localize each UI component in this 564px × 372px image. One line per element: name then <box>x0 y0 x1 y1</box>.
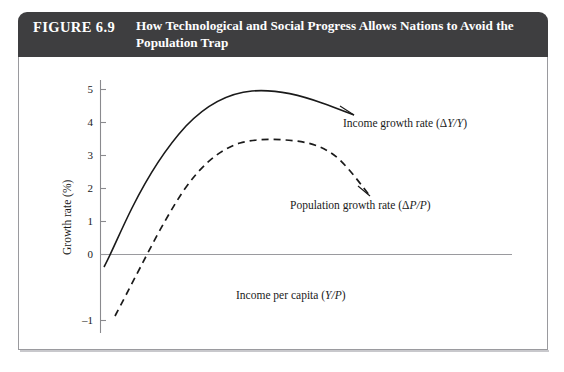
y-tick-label-3: 3 <box>88 149 94 161</box>
y-tick-label-0: 0 <box>88 248 94 260</box>
y-tick-label-neg1: –1 <box>81 314 93 326</box>
population-label-leader <box>358 186 370 196</box>
chart-plot-area: 5 4 3 2 1 0 –1 Growth rate (%) Income gr… <box>0 0 564 372</box>
y-tick-label-5: 5 <box>88 83 94 95</box>
y-tick-label-1: 1 <box>88 215 94 227</box>
y-axis-ticks <box>101 90 107 321</box>
y-tick-label-2: 2 <box>88 182 94 194</box>
y-axis-title: Growth rate (%) <box>61 179 74 255</box>
series-label-population: Population growth rate (ΔP/P) <box>290 199 431 212</box>
series-income-growth-curve <box>104 91 354 267</box>
series-label-income: Income growth rate (ΔY/Y) <box>343 117 467 130</box>
y-tick-label-4: 4 <box>88 116 94 128</box>
x-axis-title: Income per capita (Y/P) <box>236 289 346 302</box>
figure-screenshot: FIGURE 6.9 How Technological and Social … <box>0 0 564 372</box>
